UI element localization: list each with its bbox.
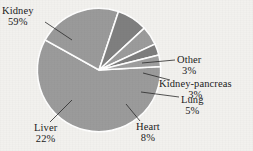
pie-label-kidney-pancreas: Kidney-pancreas 3% [159,79,232,100]
pie-label-kidney-pancreas-pct: 3% [159,90,232,101]
pie-label-heart-name: Heart [136,121,160,132]
pie-label-heart-pct: 8% [136,133,160,144]
pie-label-liver: Liver 22% [34,123,57,144]
pie-label-liver-pct: 22% [34,134,57,145]
pie-slices [37,8,160,131]
pie-label-kidney-name: Kidney [2,5,34,16]
pie-label-heart: Heart 8% [136,122,160,143]
pie-label-other: Other 3% [177,55,201,76]
pie-label-kidney-pancreas-name: Kidney-pancreas [159,78,232,89]
pie-chart: Kidney 59% Liver 22% Heart 8% Lung 5% Ki… [0,0,253,151]
pie-label-other-name: Other [177,54,201,65]
pie-label-kidney-pct: 59% [2,17,34,28]
pie-label-other-pct: 3% [177,66,201,77]
pie-label-liver-name: Liver [34,122,57,133]
pie-label-kidney: Kidney 59% [2,6,34,27]
pie-label-lung-pct: 5% [181,106,204,117]
